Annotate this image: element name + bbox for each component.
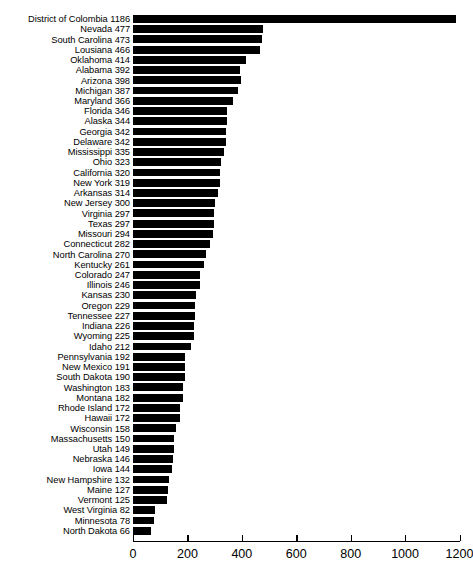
bar <box>133 312 195 320</box>
bar <box>133 250 206 258</box>
bar <box>133 517 154 525</box>
bar-category-label: Colorado 247 <box>75 270 130 280</box>
bar-row: Virginia 297 <box>0 208 469 218</box>
bar <box>133 199 215 207</box>
bar-row: North Dakota 66 <box>0 526 469 536</box>
x-axis-tick <box>242 535 243 541</box>
bar <box>133 35 262 43</box>
x-axis-tick-label: 800 <box>340 547 361 561</box>
bar-category-label: Indiana 226 <box>82 321 130 331</box>
bar <box>133 66 240 74</box>
bar-category-label: Nebraska 146 <box>73 454 130 464</box>
bar-category-label: New Jersey 300 <box>64 198 130 208</box>
bar-row: Missouri 294 <box>0 229 469 239</box>
bar-row: Texas 297 <box>0 219 469 229</box>
bar <box>133 363 185 371</box>
bar-row: Arizona 398 <box>0 75 469 85</box>
bar <box>133 240 210 248</box>
bar-row: Alabama 392 <box>0 65 469 75</box>
bar <box>133 322 194 330</box>
bar <box>133 158 221 166</box>
bar-row: New Mexico 191 <box>0 362 469 372</box>
bar <box>133 424 176 432</box>
bar-category-label: Oklahoma 414 <box>70 55 130 65</box>
bar-row: Iowa 144 <box>0 464 469 474</box>
bar-category-label: District of Colombia 1186 <box>28 14 130 24</box>
x-axis-tick-label: 200 <box>177 547 198 561</box>
bar <box>133 46 260 54</box>
bar <box>133 506 155 514</box>
bar-category-label: Georgia 342 <box>79 127 130 137</box>
x-axis-tick-label: 400 <box>231 547 252 561</box>
bar <box>133 383 183 391</box>
bar-row: Rhode Island 172 <box>0 403 469 413</box>
bar-row: District of Colombia 1186 <box>0 14 469 24</box>
bar <box>133 353 185 361</box>
bar-category-label: Oregon 229 <box>81 301 130 311</box>
bar-row: Lousiana 466 <box>0 45 469 55</box>
bar <box>133 496 167 504</box>
bar-category-label: Connecticut 282 <box>64 239 130 249</box>
bar <box>133 302 195 310</box>
bar-row: Montana 182 <box>0 393 469 403</box>
bar-category-label: South Dakota 190 <box>56 372 130 382</box>
bar <box>133 87 238 95</box>
bar-category-label: Tennessee 227 <box>68 311 130 321</box>
bar <box>133 97 233 105</box>
bar-row: Oregon 229 <box>0 301 469 311</box>
x-axis-tick-label: 1200 <box>446 547 473 561</box>
bar-category-label: West Virginia 82 <box>63 505 130 515</box>
bar <box>133 15 456 23</box>
bar-row: Pennsylvania 192 <box>0 352 469 362</box>
bar-row: New York 319 <box>0 178 469 188</box>
bar-category-label: Missouri 294 <box>78 229 130 239</box>
bar <box>133 414 180 422</box>
bar-row: South Carolina 473 <box>0 34 469 44</box>
bar <box>133 435 174 443</box>
bar-category-label: Texas 297 <box>88 219 130 229</box>
bar-row: Delaware 342 <box>0 137 469 147</box>
bar-row: Alaska 344 <box>0 116 469 126</box>
bar-category-label: New Hampshire 132 <box>47 475 130 485</box>
bar-row: North Carolina 270 <box>0 249 469 259</box>
bar <box>133 189 218 197</box>
bar-row: Hawaii 172 <box>0 413 469 423</box>
bar-row: Vermont 125 <box>0 495 469 505</box>
bar-row: New Hampshire 132 <box>0 475 469 485</box>
bar-category-label: Pennsylvania 192 <box>57 352 130 362</box>
bar <box>133 343 191 351</box>
x-axis-tick <box>133 535 134 541</box>
bar-category-label: New York 319 <box>73 178 130 188</box>
bar-row: Georgia 342 <box>0 127 469 137</box>
bar-row: Ohio 323 <box>0 157 469 167</box>
bar-category-label: Delaware 342 <box>73 137 130 147</box>
bar-category-label: Idaho 212 <box>89 342 130 352</box>
bar-category-label: California 320 <box>73 168 130 178</box>
bar-row: Oklahoma 414 <box>0 55 469 65</box>
bar-category-label: Michigan 387 <box>75 86 130 96</box>
bar-row: Nebraska 146 <box>0 454 469 464</box>
bar-row: Florida 346 <box>0 106 469 116</box>
bar <box>133 476 169 484</box>
bar-row: Arkansas 314 <box>0 188 469 198</box>
x-axis-tick-label: 1000 <box>391 547 419 561</box>
bar-row: Illinois 246 <box>0 280 469 290</box>
bar <box>133 455 173 463</box>
bar-row: South Dakota 190 <box>0 372 469 382</box>
bar-category-label: Vermont 125 <box>78 495 130 505</box>
bar-category-label: Minnesota 78 <box>75 516 130 526</box>
bar-category-label: Wyoming 225 <box>74 331 130 341</box>
bar-category-label: Alaska 344 <box>85 116 131 126</box>
x-axis-tick <box>405 535 406 541</box>
bar-row: Indiana 226 <box>0 321 469 331</box>
bar-row: Kentucky 261 <box>0 260 469 270</box>
bar-category-label: Wisconsin 158 <box>70 424 130 434</box>
bar-category-label: Illinois 246 <box>87 280 130 290</box>
bar <box>133 291 196 299</box>
bar <box>133 179 220 187</box>
bar-category-label: Nevada 477 <box>80 24 130 34</box>
bar <box>133 527 151 535</box>
bar-row: Wyoming 225 <box>0 331 469 341</box>
bar-row: Minnesota 78 <box>0 516 469 526</box>
